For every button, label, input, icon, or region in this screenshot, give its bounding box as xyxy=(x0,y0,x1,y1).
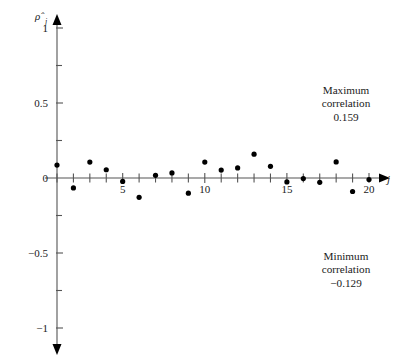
annotation-minimum-correlation: Minimum correlation −0.129 xyxy=(300,250,392,290)
annotation-maximum-correlation: Maximum correlation 0.159 xyxy=(300,84,392,124)
annotation-minimum-line1: Minimum xyxy=(300,250,392,263)
y-tick-label-0: 0 xyxy=(43,172,49,184)
annotation-minimum-value: −0.129 xyxy=(300,277,392,290)
data-point-j6 xyxy=(137,195,142,200)
x-axis xyxy=(45,174,390,183)
data-point-j14 xyxy=(268,164,273,169)
x-tick-label-15: 15 xyxy=(281,183,293,195)
data-point-j2 xyxy=(71,185,76,190)
y-tick-label-−1: −1 xyxy=(36,322,48,334)
annotation-maximum-value: 0.159 xyxy=(300,111,392,124)
data-point-j11 xyxy=(219,167,224,172)
data-point-j9 xyxy=(186,191,191,196)
correlogram-chart: −1−0.500.51 5101520 ρ̂ j j Maximum corre… xyxy=(0,0,402,359)
data-point-j4 xyxy=(104,167,109,172)
x-tick-label-10: 10 xyxy=(199,183,211,195)
data-point-j1 xyxy=(54,163,59,168)
data-point-j7 xyxy=(153,173,158,178)
y-axis-title-rho: ρ̂ xyxy=(34,10,45,22)
x-tick-label-group: 5101520 xyxy=(120,183,375,195)
annotation-minimum-line2: correlation xyxy=(300,263,392,276)
y-axis-title: ρ̂ j xyxy=(34,10,48,26)
x-tick-label-5: 5 xyxy=(120,183,126,195)
data-point-j13 xyxy=(251,152,256,157)
plot-area: −1−0.500.51 5101520 ρ̂ j j xyxy=(0,0,402,359)
annotation-maximum-line1: Maximum xyxy=(300,84,392,97)
y-axis-arrow-down xyxy=(53,344,62,355)
data-point-j3 xyxy=(87,160,92,165)
data-point-j5 xyxy=(120,179,125,184)
data-point-j20 xyxy=(366,177,371,182)
data-point-j15 xyxy=(284,179,289,184)
data-point-j19 xyxy=(350,189,355,194)
data-point-j10 xyxy=(202,160,207,165)
data-point-j18 xyxy=(334,159,339,164)
y-tick-label-−0.5: −0.5 xyxy=(28,247,48,259)
data-point-j16 xyxy=(301,176,306,181)
annotation-maximum-line2: correlation xyxy=(300,97,392,110)
y-tick-label-group: −1−0.500.51 xyxy=(28,22,48,334)
x-tick-label-20: 20 xyxy=(364,183,376,195)
data-point-j17 xyxy=(317,180,322,185)
data-point-group xyxy=(54,152,371,200)
data-point-j8 xyxy=(169,170,174,175)
y-axis-arrow-up xyxy=(53,14,62,25)
data-point-j12 xyxy=(235,165,240,170)
y-tick-label-0.5: 0.5 xyxy=(34,97,48,109)
